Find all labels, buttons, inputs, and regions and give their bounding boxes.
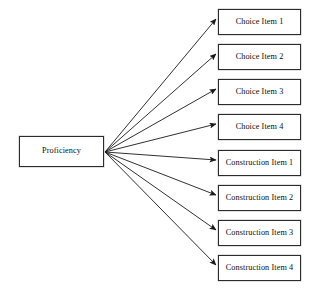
diagram-canvas: Proficiency Choice Item 1 Choice Item 2 …: [0, 0, 317, 291]
node-choice-item-1-label: Choice Item 1: [236, 18, 284, 27]
node-choice-item-3[interactable]: Choice Item 3: [218, 79, 301, 105]
edge-proficiency-to-construction-item-1: [105, 152, 216, 160]
edge-proficiency-to-choice-item-1: [105, 19, 216, 152]
node-construction-item-3-label: Construction Item 3: [226, 229, 293, 238]
node-proficiency[interactable]: Proficiency: [19, 136, 104, 167]
node-choice-item-1[interactable]: Choice Item 1: [218, 9, 301, 35]
node-choice-item-4[interactable]: Choice Item 4: [218, 114, 301, 140]
node-construction-item-3[interactable]: Construction Item 3: [218, 220, 301, 246]
edge-proficiency-to-choice-item-2: [105, 54, 216, 152]
node-construction-item-4[interactable]: Construction Item 4: [218, 255, 301, 281]
node-construction-item-4-label: Construction Item 4: [226, 264, 293, 273]
node-choice-item-4-label: Choice Item 4: [236, 123, 284, 132]
node-construction-item-2-label: Construction Item 2: [226, 194, 293, 203]
node-construction-item-2[interactable]: Construction Item 2: [218, 185, 301, 211]
edge-proficiency-to-construction-item-4: [105, 152, 216, 265]
node-proficiency-label: Proficiency: [42, 147, 81, 156]
edge-proficiency-to-choice-item-4: [105, 124, 216, 152]
node-choice-item-2-label: Choice Item 2: [236, 53, 284, 62]
node-construction-item-1[interactable]: Construction Item 1: [218, 150, 301, 176]
edge-proficiency-to-choice-item-3: [105, 89, 216, 152]
edge-proficiency-to-construction-item-3: [105, 152, 216, 230]
edge-proficiency-to-construction-item-2: [105, 152, 216, 195]
node-choice-item-2[interactable]: Choice Item 2: [218, 44, 301, 70]
node-construction-item-1-label: Construction Item 1: [226, 159, 293, 168]
node-choice-item-3-label: Choice Item 3: [236, 88, 284, 97]
